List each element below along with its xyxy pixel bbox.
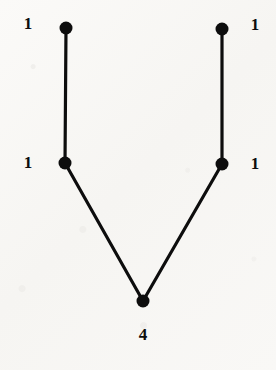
node-bottom [137, 295, 150, 308]
node-middle-right [216, 158, 229, 171]
node-layer [59, 22, 229, 308]
edge-middle-right-to-bottom [143, 164, 222, 301]
node-middle-left [59, 157, 72, 170]
edge-layer [65, 28, 222, 301]
node-top-left [60, 22, 73, 35]
node-top-right-label: 1 [251, 16, 260, 33]
node-middle-right-label: 1 [251, 155, 260, 172]
node-middle-left-label: 1 [24, 154, 33, 171]
node-top-left-label: 1 [24, 15, 33, 32]
figure-canvas: 11114 [0, 0, 276, 370]
node-bottom-label: 4 [139, 326, 148, 343]
node-top-right [216, 23, 229, 36]
edge-middle-left-to-bottom [65, 163, 143, 301]
edge-top-left-to-middle-left [65, 28, 66, 163]
graph-svg [0, 0, 276, 370]
